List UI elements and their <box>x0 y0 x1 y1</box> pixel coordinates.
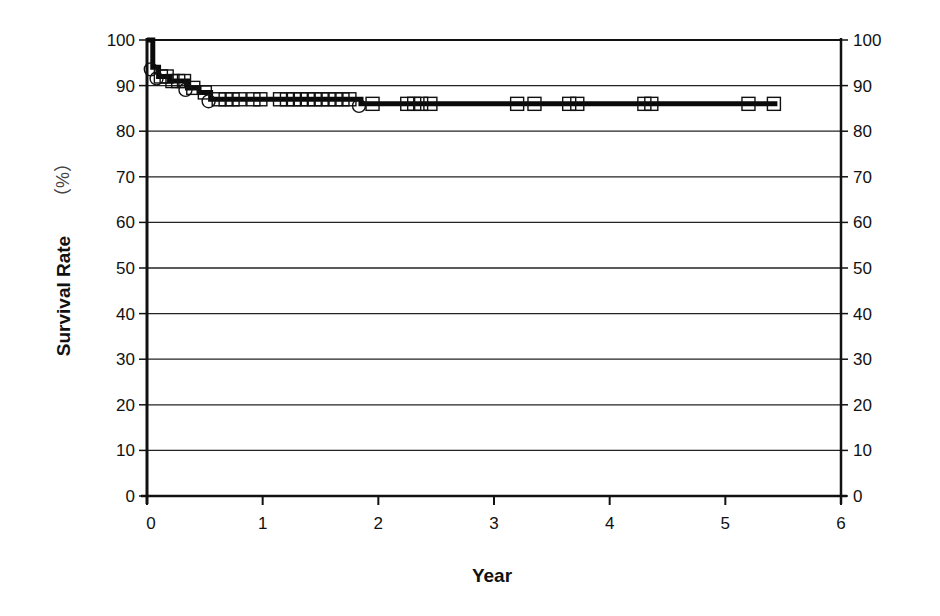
y-tick-label-right: 80 <box>853 122 872 141</box>
y-tick-label: 30 <box>116 350 135 369</box>
y-tick-label-right: 40 <box>853 305 872 324</box>
y-axis-right-ticks: 0102030405060708090100 <box>841 31 881 506</box>
y-tick-label-right: 30 <box>853 350 872 369</box>
survival-curve <box>147 40 777 104</box>
axes <box>141 38 847 504</box>
x-tick-label: 4 <box>605 514 614 533</box>
y-tick-label-right: 50 <box>853 259 872 278</box>
y-tick-label-right: 70 <box>853 168 872 187</box>
x-tick-label: 1 <box>258 514 267 533</box>
y-axis-left-ticks: 0102030405060708090100 <box>107 31 147 506</box>
y-axis-title: Survival Rate <box>53 236 74 356</box>
x-axis-title: Year <box>472 565 513 586</box>
y-tick-label: 60 <box>116 213 135 232</box>
y-tick-label: 100 <box>107 31 135 50</box>
y-tick-label-right: 10 <box>853 441 872 460</box>
y-tick-label: 50 <box>116 259 135 278</box>
y-tick-label: 80 <box>116 122 135 141</box>
y-tick-label-right: 60 <box>853 213 872 232</box>
y-tick-label: 0 <box>126 487 135 506</box>
x-tick-label: 6 <box>836 514 845 533</box>
y-tick-label-right: 100 <box>853 31 881 50</box>
y-tick-label: 70 <box>116 168 135 187</box>
x-tick-label: 3 <box>489 514 498 533</box>
y-tick-label: 40 <box>116 305 135 324</box>
survival-step-line <box>147 40 777 104</box>
y-tick-label: 10 <box>116 441 135 460</box>
y-tick-label-right: 20 <box>853 396 872 415</box>
y-tick-label-right: 90 <box>853 77 872 96</box>
y-tick-label-right: 0 <box>853 487 862 506</box>
x-axis-ticks: 0123456 <box>146 496 845 533</box>
x-tick-label: 2 <box>374 514 383 533</box>
x-tick-label: 0 <box>146 514 155 533</box>
y-tick-label: 20 <box>116 396 135 415</box>
survival-chart: 0102030405060708090100 01020304050607080… <box>0 0 940 616</box>
x-tick-label: 5 <box>721 514 730 533</box>
y-axis-unit: （%） <box>53 154 73 206</box>
y-tick-label: 90 <box>116 77 135 96</box>
